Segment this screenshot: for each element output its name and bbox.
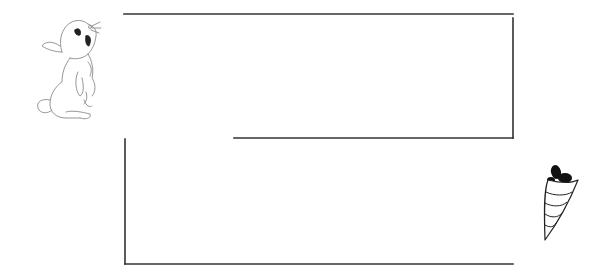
rabbit-icon [38,20,101,118]
carrot-leaf [558,173,572,183]
maze-canvas [0,0,607,279]
maze-walls [124,14,513,264]
carrot-icon [544,164,578,240]
